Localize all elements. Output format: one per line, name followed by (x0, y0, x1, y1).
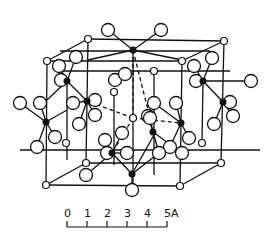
small-atom (130, 115, 137, 122)
small-atom (218, 160, 225, 167)
large-atom (73, 118, 86, 131)
cell-edge (88, 39, 224, 41)
large-atom (99, 134, 112, 147)
large-atom (53, 60, 66, 73)
large-atom (126, 184, 139, 197)
large-atom (245, 75, 258, 88)
large-atom (67, 97, 80, 110)
large-atom (183, 132, 196, 145)
large-atom (80, 169, 93, 182)
scale-tick-label: 4 (144, 207, 151, 220)
small-atom (151, 68, 158, 75)
small-atom (44, 58, 51, 65)
scale-tick-label: 1 (84, 207, 91, 220)
cell-edge (180, 163, 221, 186)
large-atom (227, 110, 240, 123)
large-atom (34, 97, 47, 110)
large-atom (206, 52, 219, 65)
large-atom (208, 118, 221, 131)
black-atom (200, 78, 207, 85)
large-atom (155, 24, 168, 37)
black-atom (130, 47, 137, 54)
cell-edge (46, 185, 180, 186)
large-atom (31, 141, 44, 154)
black-atom (43, 119, 50, 126)
small-atom (111, 89, 118, 96)
large-atom (14, 97, 27, 110)
scale-bar-ticks: 012345A (64, 207, 179, 227)
large-atom (188, 60, 201, 73)
small-atom (85, 36, 92, 43)
small-atom (179, 58, 186, 65)
small-atom (221, 38, 228, 45)
scale-tick-label: 3 (124, 207, 131, 220)
large-atom (102, 24, 115, 37)
crystal-structure-diagram: 012345A (0, 0, 270, 242)
black-atom (109, 150, 116, 157)
large-atom (89, 94, 102, 107)
large-atom (121, 147, 134, 160)
dashed-bond (133, 50, 150, 118)
black-atom (64, 78, 71, 85)
large-atom (116, 127, 129, 140)
scale-tick-label: 2 (104, 207, 111, 220)
bond (203, 81, 223, 102)
large-atom (89, 109, 102, 122)
scale-tick-label: 5A (164, 207, 179, 220)
large-atom (144, 112, 157, 125)
bond (46, 110, 67, 122)
scale-bar: 012345A (64, 207, 179, 227)
large-atom (176, 147, 189, 160)
bond (132, 135, 154, 174)
small-atom (177, 183, 184, 190)
black-atom (84, 98, 91, 105)
cell-edge (202, 81, 203, 143)
small-atom (43, 182, 50, 189)
large-atom (170, 97, 183, 110)
large-atom (49, 131, 62, 144)
small-atom (63, 140, 70, 147)
large-atom (119, 68, 132, 81)
scale-tick-label: 0 (64, 207, 71, 220)
black-atom (129, 171, 136, 178)
large-atom (148, 97, 161, 110)
large-atom (153, 147, 166, 160)
black-atom (178, 120, 185, 127)
large-atom (70, 51, 83, 64)
black-atom (150, 129, 157, 136)
small-atom (83, 160, 90, 167)
black-atom (220, 99, 227, 106)
small-atom (199, 140, 206, 147)
